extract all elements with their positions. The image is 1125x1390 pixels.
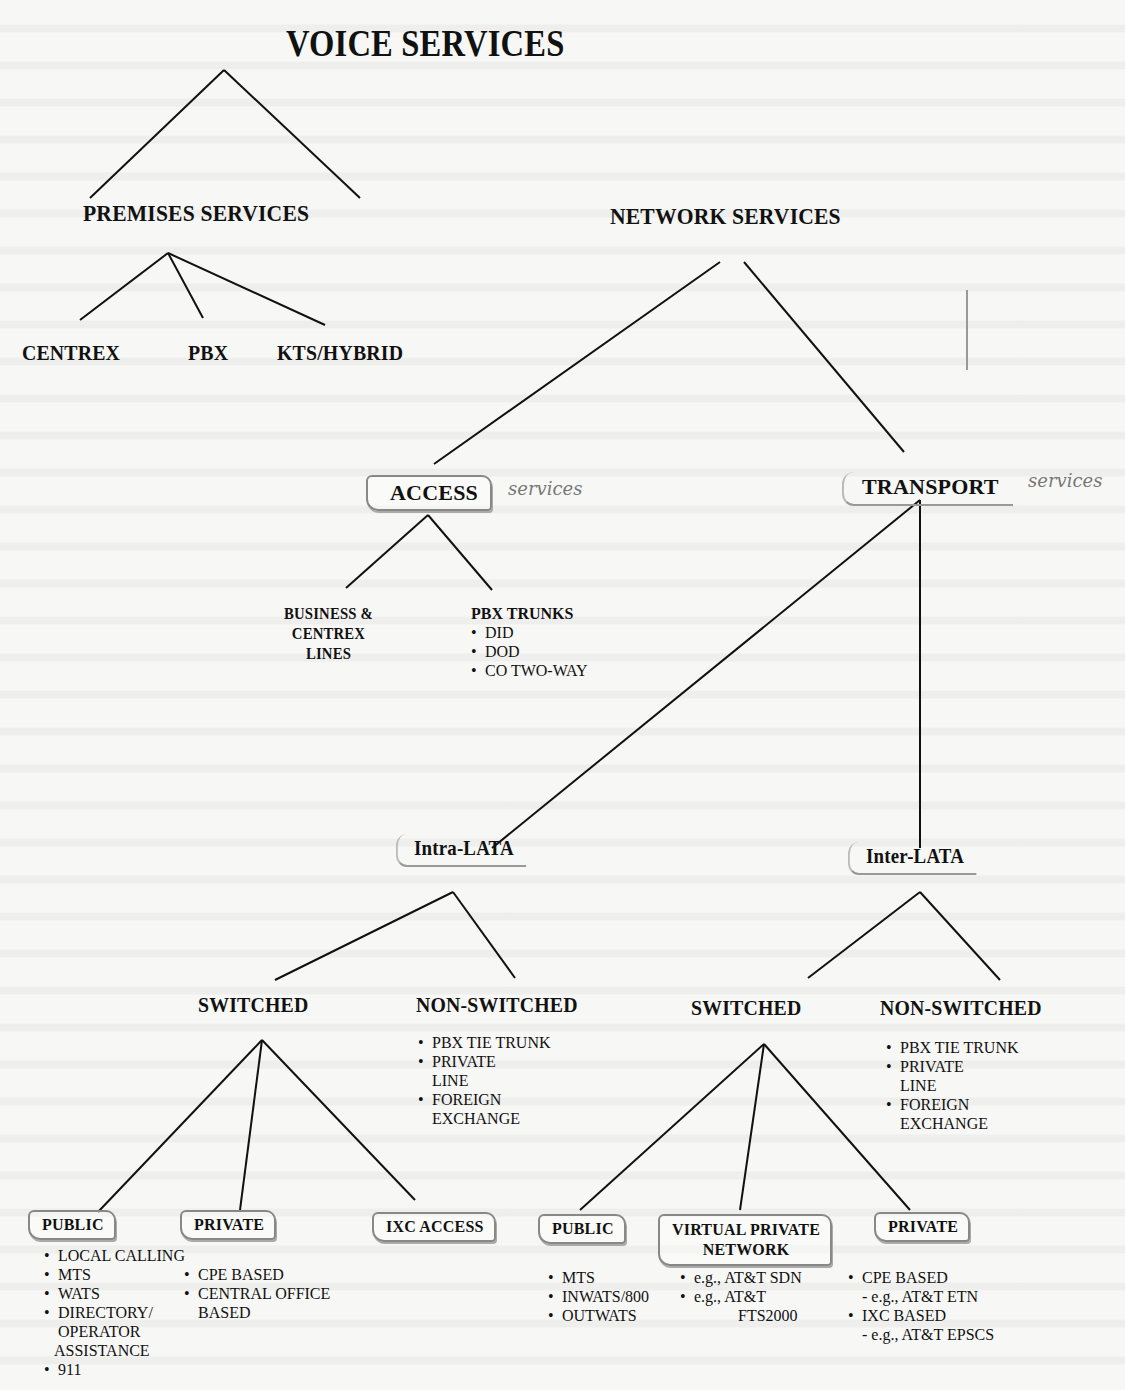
list-item: PBX TIE TRUNK [418,1033,551,1052]
list-item: IXC BASED [848,1306,994,1325]
business-lines-line2: CENTREX [284,624,373,644]
margin-pen-mark [966,290,968,370]
node-transport: TRANSPORT [842,472,1013,506]
list-item: MTS [44,1265,185,1284]
intra-private-label: PRIVATE [194,1216,264,1233]
list-item: BASED [184,1303,330,1322]
pbx-trunk-item: DID [471,623,588,642]
node-intra-lata: Intra-LATA [396,834,526,867]
list-item: PBX TIE TRUNK [886,1038,1019,1057]
node-inter-non-switched: NON-SWITCHED [880,995,1042,1021]
list-item: DIRECTORY/ [44,1303,185,1322]
list-item: LOCAL CALLING [44,1246,185,1265]
list-item: FOREIGN [886,1095,1019,1114]
list-item: EXCHANGE [418,1109,551,1128]
node-access-label: ACCESS [390,480,478,505]
node-intra-public: PUBLIC [28,1210,116,1240]
vpn-list: e.g., AT&T SDN e.g., AT&T FTS2000 [680,1268,802,1325]
intra-public-list: LOCAL CALLING MTS WATS DIRECTORY/ OPERAT… [44,1246,185,1379]
list-item: e.g., AT&T [680,1287,802,1306]
list-item: PRIVATE [886,1057,1019,1076]
node-kts-hybrid: KTS/HYBRID [277,340,403,366]
node-pbx: PBX [188,340,228,366]
node-transport-label: TRANSPORT [862,474,999,499]
list-item: EXCHANGE [886,1114,1019,1133]
pbx-trunks-label: PBX TRUNKS [471,604,588,623]
list-item: CPE BASED [848,1268,994,1287]
inter-non-switched-list: PBX TIE TRUNK PRIVATE LINE FOREIGN EXCHA… [886,1038,1019,1133]
list-item: WATS [44,1284,185,1303]
list-item: LINE [418,1071,551,1090]
list-item: - e.g., AT&T EPSCS [848,1325,994,1344]
list-item: e.g., AT&T SDN [680,1268,802,1287]
node-pbx-trunks: PBX TRUNKS DID DOD CO TWO-WAY [471,604,588,680]
ixc-access-label: IXC ACCESS [386,1218,484,1235]
node-premises-services: PREMISES SERVICES [83,200,309,227]
node-inter-lata: Inter-LATA [848,842,977,875]
intra-private-list: CPE BASED CENTRAL OFFICE BASED [184,1265,330,1322]
node-business-centrex-lines: BUSINESS & CENTREX LINES [284,604,373,664]
inter-private-list: CPE BASED - e.g., AT&T ETN IXC BASED - e… [848,1268,994,1344]
intra-non-switched-list: PBX TIE TRUNK PRIVATE LINE FOREIGN EXCHA… [418,1033,551,1128]
business-lines-line3: LINES [284,644,373,664]
list-item: OUTWATS [548,1306,649,1325]
node-access: ACCESS [366,475,492,511]
node-inter-public: PUBLIC [538,1214,626,1244]
list-item: MTS [548,1268,649,1287]
intra-public-label: PUBLIC [42,1216,104,1233]
node-intra-switched: SWITCHED [198,992,308,1018]
node-virtual-private-network: VIRTUAL PRIVATE NETWORK [658,1214,832,1266]
node-centrex: CENTREX [22,340,120,366]
pbx-trunk-item: CO TWO-WAY [471,661,588,680]
intra-lata-label: Intra-LATA [414,836,514,860]
list-item: OPERATOR [44,1322,185,1341]
title-voice-services: VOICE SERVICES [286,22,564,65]
business-lines-line1: BUSINESS & [284,604,373,624]
node-intra-non-switched: NON-SWITCHED [416,992,578,1018]
inter-lata-label: Inter-LATA [866,844,964,868]
pbx-trunk-item: DOD [471,642,588,661]
inter-public-label: PUBLIC [552,1220,614,1237]
list-item: FTS2000 [680,1306,802,1325]
list-item: INWATS/800 [548,1287,649,1306]
list-item: ASSISTANCE [44,1341,185,1360]
node-ixc-access: IXC ACCESS [372,1212,496,1242]
vpn-label-line1: VIRTUAL PRIVATE [672,1220,820,1240]
vpn-label-line2: NETWORK [672,1240,820,1260]
handwritten-annotation-access: services [508,478,582,499]
list-item: CPE BASED [184,1265,330,1284]
list-item: PRIVATE [418,1052,551,1071]
node-network-services: NETWORK SERVICES [610,203,841,230]
list-item: FOREIGN [418,1090,551,1109]
list-item: CENTRAL OFFICE [184,1284,330,1303]
handwritten-annotation-transport: services [1028,470,1102,491]
list-item: - e.g., AT&T ETN [848,1287,994,1306]
node-inter-switched: SWITCHED [691,995,801,1021]
node-inter-private: PRIVATE [874,1212,970,1242]
list-item: 911 [44,1360,185,1379]
node-intra-private: PRIVATE [180,1210,276,1240]
list-item: LINE [886,1076,1019,1095]
inter-private-label: PRIVATE [888,1218,958,1235]
inter-public-list: MTS INWATS/800 OUTWATS [548,1268,649,1325]
